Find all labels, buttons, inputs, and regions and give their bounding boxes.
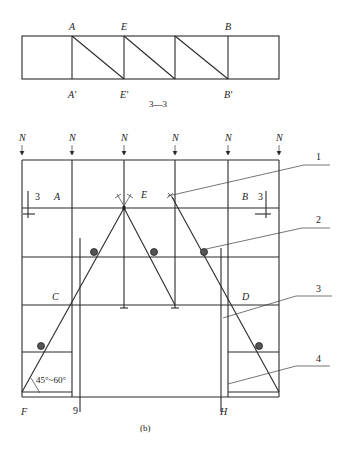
- label-A-prime: A': [67, 89, 77, 100]
- label-9: 9: [73, 405, 78, 416]
- label-E-prime: E': [119, 89, 129, 100]
- angle-label: 45°~60°: [36, 375, 66, 385]
- label-B-prime: B': [224, 89, 233, 100]
- callout-4: 4: [316, 353, 321, 364]
- label-B: B: [242, 191, 248, 202]
- load-label: N: [120, 132, 129, 143]
- bolt: [151, 249, 158, 256]
- load-label: N: [171, 132, 180, 143]
- diagonal-brace: [72, 36, 124, 79]
- section-caption: 3—3: [149, 99, 168, 109]
- label-B: B: [225, 21, 231, 32]
- label-A: A: [68, 21, 76, 32]
- bolt: [201, 249, 208, 256]
- callout-3: 3: [316, 283, 321, 294]
- label-C: C: [52, 291, 59, 302]
- load-label: N: [224, 132, 233, 143]
- figure-caption: (b): [140, 423, 151, 433]
- bolt: [38, 343, 45, 350]
- section-mark-label: 3: [35, 191, 40, 202]
- label-A: A: [53, 191, 61, 202]
- label-E: E: [140, 189, 147, 200]
- label-E: E: [120, 21, 127, 32]
- label-H: H: [219, 406, 228, 417]
- load-label: N: [275, 132, 284, 143]
- bolt: [256, 343, 263, 350]
- elevation-view: N N N N N N: [18, 132, 332, 433]
- load-arrows: N N N N N N: [18, 132, 284, 155]
- bolt: [91, 249, 98, 256]
- tie-rod: [172, 197, 279, 392]
- tie-rod: [22, 208, 124, 392]
- callout-leaders: [168, 165, 332, 384]
- callout-1: 1: [316, 151, 321, 162]
- section-outline: [22, 36, 279, 79]
- engineering-diagram: A E B A' E' B' 3—3 N N N N N N: [0, 0, 352, 451]
- section-mark-left: [23, 191, 35, 218]
- label-F: F: [20, 406, 28, 417]
- label-D: D: [241, 291, 250, 302]
- load-label: N: [18, 132, 27, 143]
- diagonal-brace: [124, 36, 175, 79]
- load-label: N: [68, 132, 77, 143]
- diagonal-brace: [175, 36, 228, 79]
- section-mark-label: 3: [258, 191, 263, 202]
- callout-2: 2: [316, 214, 321, 225]
- section-3-3-view: A E B A' E' B' 3—3: [22, 21, 279, 109]
